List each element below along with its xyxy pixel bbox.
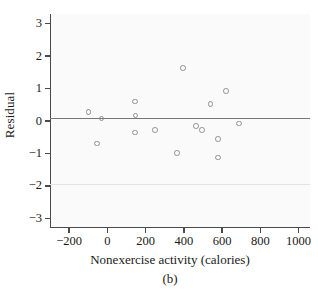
x-axis-tick [298,228,299,233]
y-axis-tick [45,55,50,56]
data-point [199,127,205,133]
y-axis-tick-label: 2 [12,50,42,63]
data-point [174,150,180,156]
y-axis-tick-label: 3 [12,17,42,30]
x-axis-tick [183,228,184,233]
data-point [132,99,138,105]
data-point [215,136,221,142]
residual-plot-figure: Residual 3210−1−2−3 −2000200400600800100… [0,0,318,292]
y-axis-tick [45,120,50,121]
y-axis-tick [45,185,50,186]
y-axis-tick [45,218,50,219]
data-point [180,65,186,71]
x-axis-title: Nonexercise activity (calories) [30,252,310,268]
y-axis-tick-label: −3 [12,212,42,225]
y-axis-tick-label: 1 [12,82,42,95]
y-axis-line [50,14,51,228]
y-axis-tick [45,88,50,89]
data-point [223,88,229,94]
y-axis-tick-label: 0 [12,115,42,128]
zero-reference-line [50,118,310,119]
x-axis-line [50,227,310,228]
x-axis-tick [145,228,146,233]
x-axis-tick [260,228,261,233]
x-axis-tick [68,228,69,233]
x-axis-tick-label: 1000 [277,235,318,248]
data-point [94,141,100,147]
y-axis-tick-label: −1 [12,147,42,160]
y-axis-tick-label: −2 [12,179,42,192]
y-axis-tick [45,153,50,154]
plot-panel [50,14,310,228]
x-axis-tick [221,228,222,233]
data-point [215,155,221,161]
data-point [132,130,138,136]
figure-caption: (b) [30,271,310,287]
y-axis-tick [45,23,50,24]
x-axis-tick [107,228,108,233]
reference-line-minus-two [50,184,310,185]
data-point [152,127,158,133]
